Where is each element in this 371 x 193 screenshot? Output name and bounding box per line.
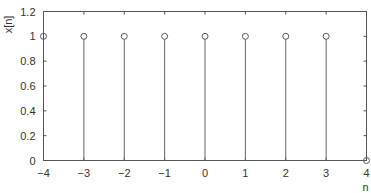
y-tick-label: 1: [29, 30, 35, 42]
stem-marker: [162, 33, 168, 39]
x-tick-label: 1: [242, 167, 248, 179]
y-tick-label: 0.6: [20, 80, 35, 92]
x-tick-label: −2: [118, 167, 131, 179]
stem-marker: [202, 33, 208, 39]
stem-marker: [242, 33, 248, 39]
x-axis-label: n: [362, 181, 368, 193]
y-tick-label: 0: [29, 155, 35, 167]
x-tick-label: 2: [283, 167, 289, 179]
stem-marker: [323, 33, 329, 39]
x-tick-label: 4: [363, 167, 369, 179]
x-tick-label: −1: [158, 167, 171, 179]
stem-series: [41, 33, 370, 163]
x-tick-label: −3: [78, 167, 91, 179]
stem-marker: [81, 33, 87, 39]
y-axis-label: x[n]: [2, 16, 14, 34]
y-tick-label: 1.2: [20, 6, 35, 18]
y-axis-ticks: 00.20.40.60.811.2: [20, 6, 366, 167]
stem-plot: −4−3−2−101234 00.20.40.60.811.2 x[n] n: [0, 0, 371, 193]
stem-marker: [283, 33, 289, 39]
x-tick-label: −4: [37, 167, 50, 179]
y-tick-label: 0.2: [20, 130, 35, 142]
stem-marker: [121, 33, 127, 39]
x-tick-label: 3: [323, 167, 329, 179]
y-tick-label: 0.8: [20, 55, 35, 67]
y-tick-label: 0.4: [20, 105, 35, 117]
x-tick-label: 0: [202, 167, 208, 179]
